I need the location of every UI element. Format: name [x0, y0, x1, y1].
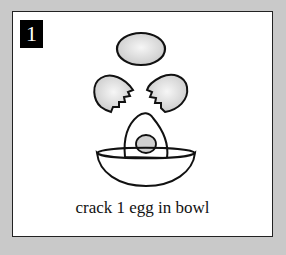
- whole-egg-icon: [117, 33, 165, 65]
- instruction-caption: crack 1 egg in bowl: [13, 198, 272, 218]
- egg-yolk-icon: [125, 113, 168, 158]
- instruction-card: 1 crack 1 egg in bowl: [12, 11, 273, 237]
- cracked-shell-right-icon: [147, 75, 187, 112]
- cracked-shell-left-icon: [94, 76, 133, 112]
